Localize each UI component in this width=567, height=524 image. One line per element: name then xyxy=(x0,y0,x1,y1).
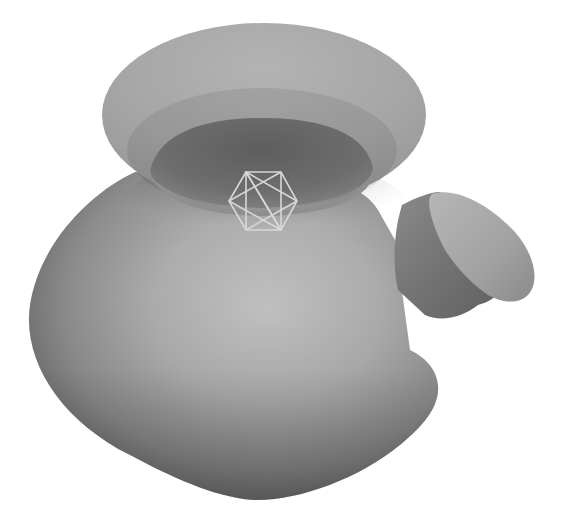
vase-render xyxy=(0,0,567,524)
render-viewport: 3D rendered vase with spout xyxy=(0,0,567,524)
